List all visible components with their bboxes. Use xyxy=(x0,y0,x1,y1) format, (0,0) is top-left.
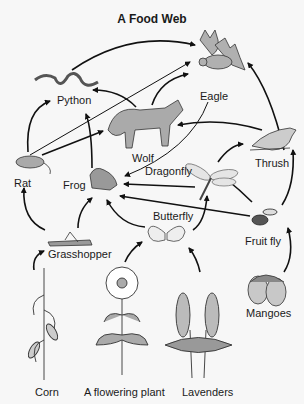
arrow-lavenders-butterfly xyxy=(189,248,200,272)
label-python: Python xyxy=(57,94,91,106)
thrush-icon xyxy=(250,128,296,150)
arrow-rat-python xyxy=(28,101,50,152)
rat-icon xyxy=(16,156,50,174)
arrow-butterfly-frog xyxy=(107,200,145,227)
diagram-title: A Food Web xyxy=(0,12,304,26)
arrow-grasshopper-rat xyxy=(24,188,45,230)
label-dragonfly: Dragonfly xyxy=(145,165,192,177)
label-eagle: Eagle xyxy=(200,90,228,102)
python-icon xyxy=(35,73,98,85)
label-flowering-plant: A flowering plant xyxy=(84,386,165,398)
label-fruit-fly: Fruit fly xyxy=(245,235,281,247)
fruit-fly-icon xyxy=(252,209,277,225)
arrow-thrush-wolf xyxy=(178,122,262,130)
arrow-flowering-butterfly xyxy=(125,242,142,262)
arrow-butterfly-dragonfly xyxy=(193,196,207,230)
flowering-plant-icon xyxy=(96,267,148,375)
eagle-icon xyxy=(199,30,245,70)
grasshopper-icon xyxy=(48,232,92,246)
mangoes-icon xyxy=(248,275,286,306)
food-web-diagram xyxy=(0,0,304,404)
label-mangoes: Mangoes xyxy=(246,307,291,319)
lavenders-icon xyxy=(165,293,232,378)
arrow-dragonfly-frog xyxy=(124,184,195,187)
frog-icon xyxy=(90,168,117,190)
corn-icon xyxy=(26,268,60,380)
arrow-python-eagle xyxy=(72,41,195,70)
label-lavenders: Lavenders xyxy=(182,386,233,398)
label-frog: Frog xyxy=(63,179,86,191)
arrow-grasshopper-frog xyxy=(78,198,92,228)
label-rat: Rat xyxy=(14,177,31,189)
label-wolf: Wolf xyxy=(132,152,154,164)
arrow-corn-grasshopper xyxy=(34,251,44,270)
arrow-wolf-eagle xyxy=(152,74,188,105)
label-grasshopper: Grasshopper xyxy=(48,248,112,260)
arrow-wolf-python xyxy=(93,90,136,107)
label-butterfly: Butterfly xyxy=(153,210,193,222)
butterfly-icon xyxy=(148,226,185,241)
arrow-mangoes-fruitfly xyxy=(284,228,291,272)
arrow-dragonfly-thrush xyxy=(218,144,243,162)
wolf-icon xyxy=(108,100,183,148)
label-corn: Corn xyxy=(35,386,59,398)
label-thrush: Thrush xyxy=(255,157,289,169)
